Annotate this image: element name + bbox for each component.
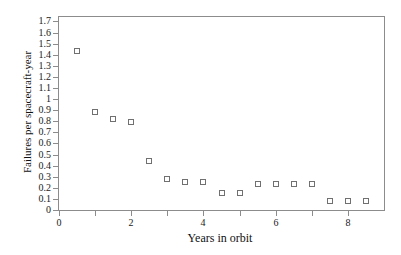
x-tick-label: 6 xyxy=(274,217,279,229)
data-point xyxy=(309,181,315,187)
y-tick-mark xyxy=(53,155,58,156)
y-tick-mark xyxy=(53,88,58,89)
y-tick-mark xyxy=(53,132,58,133)
data-point xyxy=(146,158,152,164)
y-tick-mark xyxy=(53,177,58,178)
y-tick-mark xyxy=(53,33,58,34)
data-point xyxy=(92,109,98,115)
y-tick-label: 0.7 xyxy=(21,126,51,138)
y-tick-mark xyxy=(53,143,58,144)
y-tick-mark xyxy=(53,210,58,211)
data-point xyxy=(363,198,369,204)
y-tick-mark xyxy=(53,166,58,167)
plot-area: 00.10.20.30.40.50.60.70.80.911.11.21.31.… xyxy=(58,16,385,211)
y-tick-label: 0.3 xyxy=(21,171,51,183)
y-tick-label: 1.5 xyxy=(21,38,51,50)
x-tick-label: 8 xyxy=(346,217,351,229)
y-tick-label: 1.3 xyxy=(21,60,51,72)
data-point xyxy=(345,198,351,204)
y-tick-label: 0.5 xyxy=(21,149,51,161)
y-tick-mark xyxy=(53,99,58,100)
x-tick-label: 4 xyxy=(201,217,206,229)
y-tick-label: 0.8 xyxy=(21,115,51,127)
y-tick-label: 0.2 xyxy=(21,182,51,194)
y-tick-mark xyxy=(53,44,58,45)
data-point xyxy=(74,48,80,54)
x-tick-mark xyxy=(348,211,349,216)
y-tick-label: 1.7 xyxy=(21,15,51,27)
y-tick-mark xyxy=(53,66,58,67)
y-tick-label: 0.9 xyxy=(21,104,51,116)
data-point xyxy=(182,179,188,185)
y-tick-label: 1.4 xyxy=(21,49,51,61)
x-tick-mark xyxy=(240,211,241,216)
x-tick-mark xyxy=(131,211,132,216)
x-tick-mark xyxy=(167,211,168,216)
x-tick-label: 2 xyxy=(129,217,134,229)
y-tick-mark xyxy=(53,77,58,78)
y-tick-mark xyxy=(53,110,58,111)
data-point xyxy=(164,176,170,182)
y-tick-label: 1.1 xyxy=(21,82,51,94)
x-tick-mark xyxy=(312,211,313,216)
x-tick-mark xyxy=(203,211,204,216)
data-point xyxy=(128,119,134,125)
data-point xyxy=(255,181,261,187)
y-tick-label: 0 xyxy=(21,204,51,216)
y-tick-label: 0.1 xyxy=(21,193,51,205)
y-tick-mark xyxy=(53,21,58,22)
data-point xyxy=(237,190,243,196)
data-point xyxy=(219,190,225,196)
y-tick-mark xyxy=(53,55,58,56)
y-tick-label: 1 xyxy=(21,93,51,105)
x-tick-mark xyxy=(276,211,277,216)
y-tick-label: 1.6 xyxy=(21,27,51,39)
data-point xyxy=(291,181,297,187)
x-tick-label: 0 xyxy=(57,217,62,229)
y-tick-label: 0.4 xyxy=(21,160,51,172)
x-axis-title: Years in orbit xyxy=(188,231,253,246)
y-tick-mark xyxy=(53,199,58,200)
scatter-chart-figure: Failures per spacecraft-year 00.10.20.30… xyxy=(0,0,401,255)
data-point xyxy=(273,181,279,187)
data-point xyxy=(327,198,333,204)
x-tick-mark xyxy=(59,211,60,216)
y-tick-label: 1.2 xyxy=(21,71,51,83)
y-tick-mark xyxy=(53,121,58,122)
x-tick-mark xyxy=(95,211,96,216)
data-point xyxy=(200,179,206,185)
data-point xyxy=(110,116,116,122)
y-tick-mark xyxy=(53,188,58,189)
y-tick-label: 0.6 xyxy=(21,137,51,149)
